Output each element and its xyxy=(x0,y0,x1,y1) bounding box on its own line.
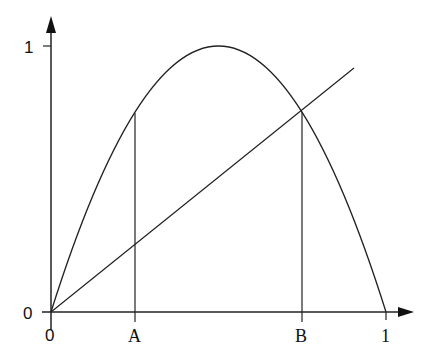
x-axis-arrow-icon xyxy=(398,307,414,317)
x-label-a: A xyxy=(128,326,141,346)
x-label-origin: 0 xyxy=(45,326,54,345)
y-label-origin: 0 xyxy=(23,304,32,323)
diagram-canvas: 1 0 0 A B 1 xyxy=(0,0,433,363)
x-label-b: B xyxy=(295,326,307,346)
diagonal-line xyxy=(51,68,354,312)
x-label-one: 1 xyxy=(381,326,390,346)
y-axis-arrow-icon xyxy=(46,16,56,33)
y-label-one: 1 xyxy=(24,38,33,57)
